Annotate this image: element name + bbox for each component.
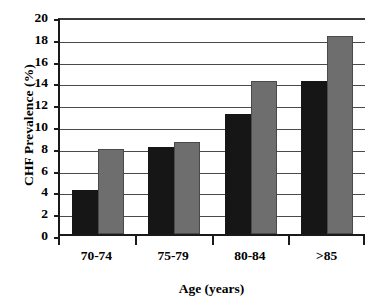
x-tick-label: >85 [288,248,365,264]
y-tick-label: 8 [0,141,48,157]
bar-group [289,20,365,234]
y-tick-mark [54,106,60,108]
y-tick-mark [54,84,60,86]
x-axis-title: Age (years) [58,281,365,297]
y-tick-mark [54,63,60,65]
x-tick-label: 75-79 [135,248,212,264]
y-tick-label: 18 [0,32,48,48]
bar [98,149,124,234]
x-axis-tick-labels: 70-7475-7980-84>85 [58,248,365,264]
x-tick-mark [58,236,60,245]
bar [72,190,98,234]
y-tick-label: 10 [0,119,48,135]
x-tick-mark [212,236,214,245]
y-tick-label: 4 [0,184,48,200]
x-tick-label: 70-74 [58,248,135,264]
x-tick-label: 80-84 [212,248,289,264]
x-tick-mark [363,236,365,245]
bar [327,36,353,234]
bar-group [136,20,212,234]
y-tick-mark [54,172,60,174]
bar-groups [60,20,365,234]
y-tick-mark [54,128,60,130]
bar-group [60,20,136,234]
x-tick-mark [135,236,137,245]
y-tick-label: 2 [0,206,48,222]
y-tick-label: 0 [0,228,48,244]
x-tick-mark [288,236,290,245]
y-tick-label: 12 [0,97,48,113]
y-tick-label: 6 [0,163,48,179]
y-tick-mark [54,19,60,21]
bar [148,147,174,234]
bar [251,81,277,234]
bar [225,114,251,234]
y-tick-label: 16 [0,54,48,70]
y-tick-mark [54,41,60,43]
y-tick-label: 20 [0,10,48,26]
y-tick-mark [54,193,60,195]
y-tick-mark [54,150,60,152]
bar [301,81,327,234]
plot-area [58,18,365,236]
bar-group [213,20,289,234]
y-tick-mark [54,215,60,217]
y-tick-label: 14 [0,75,48,91]
x-axis-tick-marks [58,236,365,245]
chf-prevalence-bar-chart: CHF Prevalence (%) 02468101214161820 70-… [0,0,388,305]
bar [174,142,200,234]
